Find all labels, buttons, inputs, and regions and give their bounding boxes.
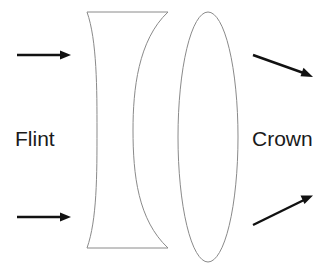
flint-concave-lens (87, 12, 168, 248)
crown-convex-lens (178, 12, 238, 262)
flint-label: Flint (15, 127, 55, 150)
arrow-incoming-bottom (17, 213, 71, 222)
arrow-outgoing-top (253, 55, 313, 77)
crown-label: Crown (252, 127, 313, 150)
lens-diagram: Flint Crown (0, 0, 327, 274)
arrow-incoming-top (17, 51, 71, 60)
arrow-outgoing-bottom (253, 196, 313, 226)
